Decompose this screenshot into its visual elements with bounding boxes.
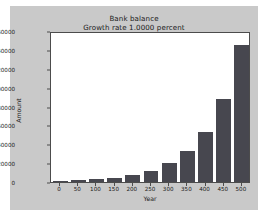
bar — [107, 178, 122, 182]
bar — [89, 179, 104, 182]
chart-title: Bank balance — [10, 14, 258, 23]
x-tick-label: 500 — [226, 186, 256, 192]
bar — [71, 180, 86, 182]
y-tick-label: 140000 — [0, 48, 15, 54]
y-tick-label: 80000 — [0, 105, 15, 111]
x-tick-mark — [114, 183, 115, 186]
bar — [53, 181, 68, 182]
x-tick-mark — [132, 183, 133, 186]
y-tick-label: 120000 — [0, 67, 15, 73]
plot-area — [50, 32, 250, 183]
y-tick-label: 100000 — [0, 86, 15, 92]
y-tick-label: 60000 — [0, 123, 15, 129]
bar — [162, 163, 177, 182]
bars-layer — [51, 33, 249, 182]
x-tick-mark — [223, 183, 224, 186]
bar — [144, 171, 159, 182]
x-tick-mark — [205, 183, 206, 186]
y-tick-label: 40000 — [0, 142, 15, 148]
y-tick-label: 20000 — [0, 161, 15, 167]
bar — [216, 99, 231, 182]
chart-title-block: Bank balance Growth rate 1.0000 percent — [10, 14, 258, 32]
x-tick-mark — [59, 183, 60, 186]
x-axis-label: Year — [50, 195, 250, 202]
y-tick-label: 160000 — [0, 29, 15, 35]
x-tick-mark — [77, 183, 78, 186]
x-tick-mark — [168, 183, 169, 186]
bar — [180, 151, 195, 182]
x-tick-mark — [95, 183, 96, 186]
x-tick-mark — [241, 183, 242, 186]
x-tick-mark — [186, 183, 187, 186]
bar — [234, 45, 249, 182]
y-axis-label: Amount — [15, 71, 22, 151]
chart-figure: Bank balance Growth rate 1.0000 percent … — [10, 6, 258, 210]
y-tick-label: 0 — [0, 180, 15, 186]
bar — [125, 175, 140, 182]
x-tick-mark — [150, 183, 151, 186]
bar — [198, 132, 213, 183]
